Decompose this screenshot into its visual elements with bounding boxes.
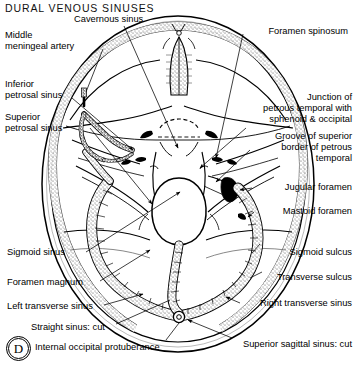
- foramen-magnum: [152, 178, 206, 245]
- label-line: border of petrous: [275, 142, 352, 153]
- label-line: Groove of superior: [275, 131, 352, 142]
- label-line: Superior sagittal sinus: cut: [243, 339, 352, 350]
- label-line: Middle: [5, 30, 74, 41]
- label-sigmoid-sinus: Sigmoid sinus: [7, 247, 65, 258]
- label-line: Transverse sulcus: [277, 272, 352, 283]
- label-inferior-petrosal-sinus: Inferior petrosal sinus: [5, 79, 62, 101]
- label-line: temporal: [275, 153, 352, 164]
- label-line: petrous temporal with: [263, 103, 352, 114]
- label-line: Superior: [5, 112, 62, 123]
- label-line: Straight sinus: cut: [31, 322, 105, 333]
- label-line: Right transverse sinus: [260, 298, 352, 309]
- label-cavernous-sinus: Cavernous sinus: [74, 14, 143, 25]
- label-foramen-spinosum: Foramen spinosum: [268, 26, 348, 37]
- label-line: Sigmoid sulcus: [289, 247, 352, 258]
- label-sigmoid-sulcus: Sigmoid sulcus: [289, 247, 352, 258]
- label-junction-petrous-temporal: Junction of petrous temporal with spheno…: [263, 92, 352, 126]
- label-groove-superior-border-petrous: Groove of superior border of petrous tem…: [275, 131, 352, 165]
- label-superior-petrosal-sinus: Superior petrosal sinus: [5, 112, 62, 134]
- panel-letter-badge: D: [6, 336, 31, 361]
- label-line: Internal occipital protuberance: [35, 342, 160, 353]
- label-line: Sigmoid sinus: [7, 247, 65, 258]
- label-straight-sinus-cut: Straight sinus: cut: [31, 322, 105, 333]
- label-line: meningeal artery: [5, 41, 74, 52]
- label-line: Junction of: [263, 92, 352, 103]
- label-line: Foramen magnum: [7, 277, 83, 288]
- label-line: Mastoid foramen: [283, 206, 352, 217]
- panel-letter: D: [6, 336, 31, 361]
- label-superior-sagittal-sinus-cut: Superior sagittal sinus: cut: [243, 339, 352, 350]
- label-jugular-foramen: Jugular foramen: [285, 182, 352, 193]
- label-left-transverse-sinus: Left transverse sinus: [7, 301, 93, 312]
- label-line: petrosal sinus: [5, 123, 62, 134]
- label-line: petrosal sinus: [5, 90, 62, 101]
- label-line: Left transverse sinus: [7, 301, 93, 312]
- label-middle-meningeal-artery: Middle meningeal artery: [5, 30, 74, 52]
- label-line: Cavernous sinus: [74, 14, 143, 25]
- label-line: Jugular foramen: [285, 182, 352, 193]
- label-internal-occipital-protuberance: Internal occipital protuberance: [35, 342, 160, 353]
- internal-occipital-protuberance: [173, 311, 184, 322]
- label-right-transverse-sinus: Right transverse sinus: [260, 298, 352, 309]
- label-line: sphenoid & occipital: [263, 114, 352, 125]
- label-line: Inferior: [5, 79, 62, 90]
- figure-root: DURAL VENOUS SINUSES: [0, 0, 357, 365]
- label-line: Foramen spinosum: [268, 26, 348, 37]
- label-mastoid-foramen: Mastoid foramen: [283, 206, 352, 217]
- label-foramen-magnum: Foramen magnum: [7, 277, 83, 288]
- label-transverse-sulcus: Transverse sulcus: [277, 272, 352, 283]
